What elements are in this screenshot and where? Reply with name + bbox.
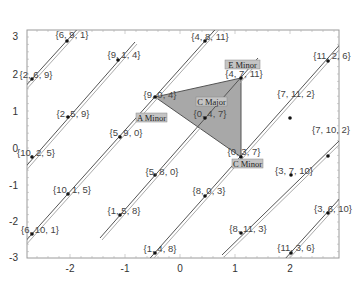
x-tick-neg1: -1 (121, 263, 130, 274)
tag-e-minor: E Minor (225, 60, 260, 70)
point-label: {5, 8, 0} (146, 166, 179, 177)
x-tick-0: 0 (177, 263, 183, 274)
x-tick-neg2: -2 (66, 263, 75, 274)
point-label: {4, 8, 11} (191, 31, 228, 42)
point-label: {3, 7, 10} (275, 165, 313, 176)
point-label: {11, 2, 6} (313, 50, 350, 61)
point-label: {2, 6, 9} (20, 69, 53, 80)
tag-c-major: C Major (196, 97, 227, 107)
svg-text:A Minor: A Minor (137, 113, 166, 123)
point-label: {2, 5, 9} (57, 108, 90, 119)
point-label: {3, 6, 10} (314, 203, 352, 214)
point-label: {1, 5, 8} (108, 205, 141, 216)
point-label: {7, 11, 2} (277, 88, 314, 99)
point-label: {10, 1, 5} (53, 184, 91, 195)
diagonal-lines (12, 22, 346, 276)
y-tick-3: 3 (12, 31, 18, 42)
tonnetz-plot: 3 2 1 0 -1 -2 -3 -2 -1 0 1 2 {6, 9, 1} {… (0, 0, 364, 288)
point-label: {7, 10, 2} (312, 124, 350, 135)
point-label: {10, 2, 5} (17, 147, 55, 158)
x-tick-2: 2 (287, 263, 293, 274)
y-tick-neg3: -3 (9, 252, 18, 263)
point-label: {6, 10, 1} (21, 224, 59, 235)
y-tick-1: 1 (12, 106, 18, 117)
tag-a-minor: A Minor (136, 113, 167, 123)
point-label: {9, 0, 4} (144, 89, 177, 100)
tag-c-minor: C Minor (232, 159, 263, 169)
point-label: {0, 3, 7} (228, 146, 261, 157)
point-label: {5, 9, 0} (110, 127, 143, 138)
point-label: {11, 3, 6} (277, 242, 314, 253)
point-label: {8, 0, 3} (193, 185, 226, 196)
point-label: {9, 1, 4} (108, 49, 141, 60)
svg-text:C Major: C Major (197, 97, 226, 107)
y-tick-neg2: -2 (9, 216, 18, 227)
y-tick-neg1: -1 (9, 180, 18, 191)
y-tick-2: 2 (12, 69, 18, 80)
svg-text:E Minor: E Minor (228, 60, 257, 70)
svg-text:C Minor: C Minor (233, 159, 262, 169)
point-marker (288, 116, 292, 120)
x-tick-1: 1 (232, 263, 238, 274)
point-label: {0, 4, 7} (194, 108, 227, 119)
point-label: {8, 11, 3} (229, 223, 266, 234)
x-axis-labels: -2 -1 0 1 2 (66, 263, 294, 274)
point-label: {4, 7, 11} (225, 68, 262, 79)
point-label: {1, 4, 8} (144, 243, 177, 254)
point-marker (326, 154, 330, 158)
point-label: {6, 9, 1} (56, 29, 89, 40)
